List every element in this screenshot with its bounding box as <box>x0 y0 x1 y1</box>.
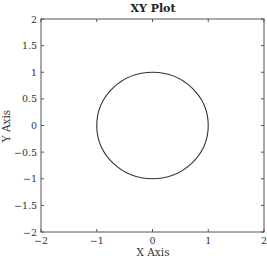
plot-frame <box>41 19 264 232</box>
y-tick-label: 0.5 <box>22 93 37 104</box>
y-tick-label: 0 <box>31 120 37 131</box>
y-axis-label: Y Axis <box>0 110 12 144</box>
y-tick-label: −1.5 <box>14 200 37 211</box>
y-tick-label: 1.5 <box>22 40 37 51</box>
y-tick-label: −0.5 <box>14 147 37 158</box>
chart-title: XY Plot <box>130 2 176 15</box>
x-tick-label: −2 <box>34 235 48 246</box>
x-tick-label: 1 <box>205 235 211 246</box>
y-tick-label: −1 <box>23 173 37 184</box>
circle-curve <box>97 72 209 179</box>
x-tick-label: 0 <box>149 235 155 246</box>
y-tick-label: 1 <box>31 67 37 78</box>
y-axis-ticks: −2−1.5−1−0.500.511.52 <box>14 14 264 238</box>
x-axis-label: X Axis <box>136 246 169 258</box>
plot-area-border <box>41 19 264 232</box>
xy-plot-chart: XY Plot −2−1.5−1−0.500.511.52 −2−1012 X … <box>0 0 267 260</box>
x-tick-label: 2 <box>261 235 267 246</box>
data-series <box>97 72 209 179</box>
y-tick-label: 2 <box>31 14 37 25</box>
x-axis-ticks: −2−1012 <box>34 19 267 246</box>
x-tick-label: −1 <box>90 235 104 246</box>
